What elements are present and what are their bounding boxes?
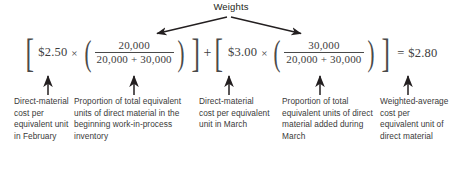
left-paren-1: ( (84, 39, 91, 68)
equation-term-1: [ $2.50 × ( 20,000 20,000 + 30,000 ) ] (23, 37, 203, 70)
multiply-symbol-1: × (67, 47, 81, 59)
right-square-bracket-2: ] (381, 37, 389, 70)
weight-1-numerator: 20,000 (112, 40, 155, 53)
right-square-bracket-1: ] (191, 37, 199, 70)
left-square-bracket-2: [ (215, 37, 223, 70)
equals-operator: = (392, 46, 408, 61)
weighted-average-cost-diagram: Weights [ $2.50 × ( 20,000 (0, 0, 460, 176)
weight-fraction-2: 30,000 20,000 + 30,000 (283, 40, 364, 66)
left-paren-2: ( (274, 39, 281, 68)
right-paren-1: ) (177, 39, 184, 68)
weight-2-numerator: 30,000 (302, 40, 345, 53)
multiply-symbol-2: × (257, 47, 271, 59)
caption-weighted-average-cost: Weighted-average cost per equivalent uni… (380, 96, 450, 142)
weight-fraction-1: 20,000 20,000 + 30,000 (94, 40, 175, 66)
weights-annotation-label: Weights (196, 1, 266, 12)
plus-operator: + (202, 45, 212, 61)
caption-proportion-added-march: Proportion of total equivalent units of … (282, 96, 374, 142)
weighted-average-result-value: $2.80 (408, 46, 437, 61)
february-unit-cost-value: $2.50 (38, 45, 67, 60)
right-paren-2: ) (367, 39, 374, 68)
term-2-body: $3.00 × ( 30,000 20,000 + 30,000 ) (226, 39, 379, 68)
term-1-body: $2.50 × ( 20,000 20,000 + 30,000 ) (36, 39, 189, 68)
caption-direct-material-cost-february: Direct-material cost per equivalent unit… (14, 96, 72, 142)
weight-2-denominator: 20,000 + 30,000 (284, 53, 363, 66)
march-unit-cost-value: $3.00 (228, 45, 257, 60)
caption-row: Direct-material cost per equivalent unit… (0, 96, 460, 176)
equation-term-2: [ $3.00 × ( 30,000 20,000 + 30,000 ) ] (212, 37, 392, 70)
left-square-bracket-1: [ (25, 37, 33, 70)
caption-proportion-beginning-wip: Proportion of total equivalent units of … (74, 96, 194, 142)
caption-direct-material-cost-march: Direct-material cost per equivalent unit… (199, 96, 271, 131)
weighted-average-equation: [ $2.50 × ( 20,000 20,000 + 30,000 ) ] +… (0, 30, 460, 76)
weight-1-denominator: 20,000 + 30,000 (95, 53, 174, 66)
